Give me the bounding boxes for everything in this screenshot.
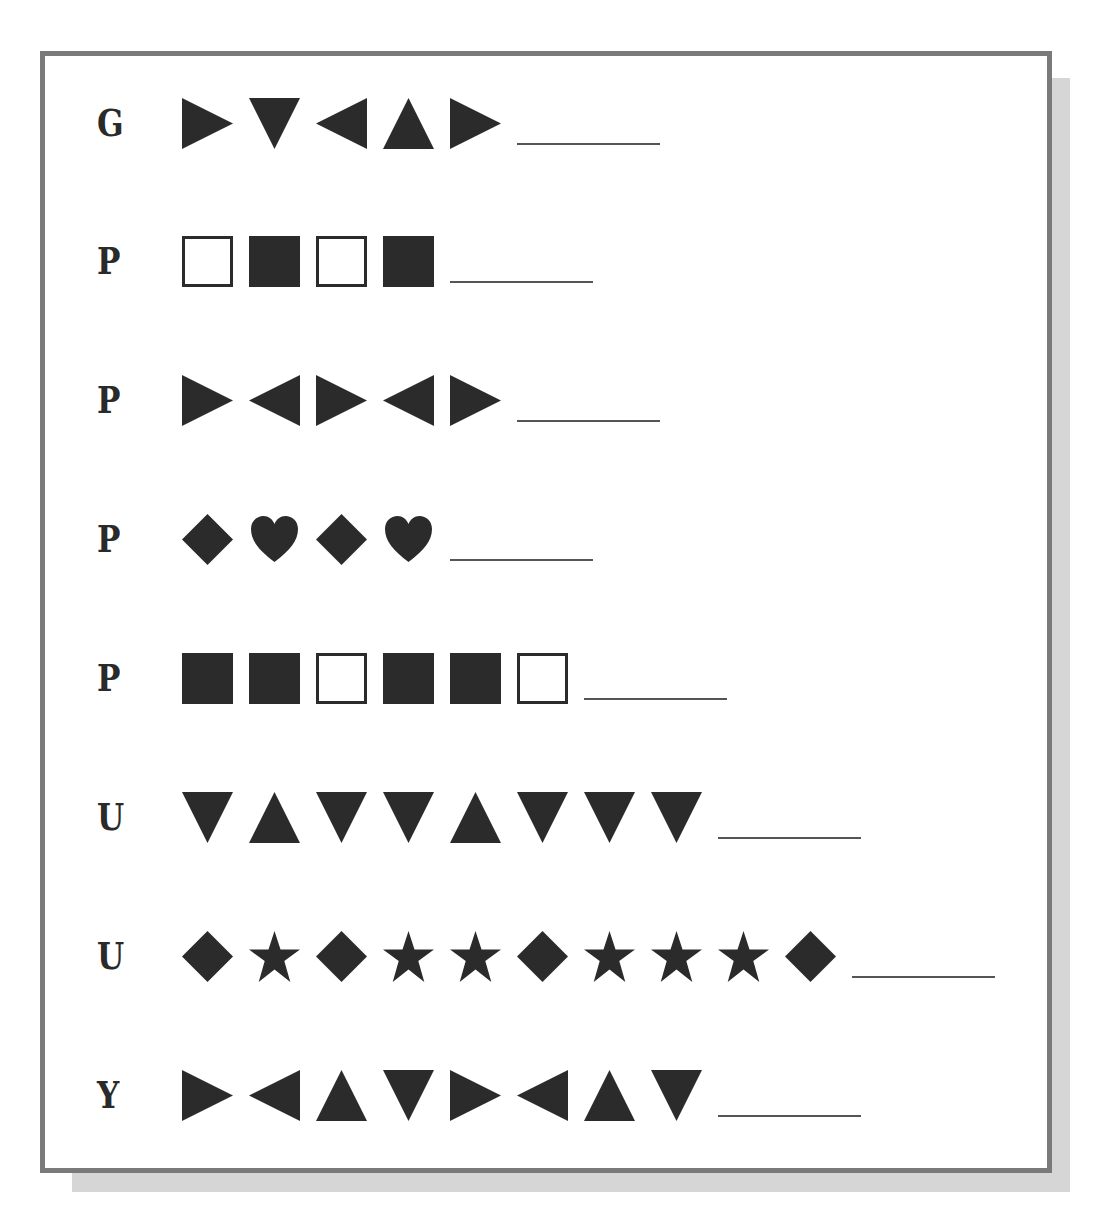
- triangle-down-icon: [651, 1070, 702, 1121]
- answer-blank[interactable]: [852, 976, 995, 978]
- triangle-right-icon: [450, 1070, 501, 1121]
- square-filled-icon: [249, 653, 300, 704]
- diamond-icon: [182, 514, 233, 565]
- star-icon: [584, 931, 635, 982]
- pattern-row: P: [45, 650, 1045, 706]
- shape-sequence: [182, 95, 660, 151]
- triangle-up-icon: [584, 1070, 635, 1121]
- triangle-up-icon: [316, 1070, 367, 1121]
- triangle-up-icon: [450, 792, 501, 843]
- answer-blank[interactable]: [584, 698, 727, 700]
- answer-blank[interactable]: [517, 143, 660, 145]
- shape-sequence: [182, 789, 861, 845]
- triangle-down-icon: [249, 98, 300, 149]
- triangle-down-icon: [383, 792, 434, 843]
- row-label: Y: [97, 1073, 130, 1117]
- row-label: G: [97, 101, 130, 145]
- square-outline-icon: [316, 653, 367, 704]
- square-filled-icon: [383, 653, 434, 704]
- row-label: P: [97, 239, 130, 283]
- pattern-row: U: [45, 789, 1045, 845]
- triangle-down-icon: [584, 792, 635, 843]
- diamond-icon: [517, 931, 568, 982]
- triangle-down-icon: [383, 1070, 434, 1121]
- worksheet-sheet: G P P P P U U Y: [40, 51, 1052, 1173]
- row-label: U: [97, 795, 130, 839]
- shape-sequence: [182, 928, 995, 984]
- shape-sequence: [182, 1067, 861, 1123]
- triangle-down-icon: [182, 792, 233, 843]
- triangle-right-icon: [450, 375, 501, 426]
- square-filled-icon: [182, 653, 233, 704]
- square-filled-icon: [383, 236, 434, 287]
- pattern-row: P: [45, 511, 1045, 567]
- answer-blank[interactable]: [450, 281, 593, 283]
- star-icon: [383, 931, 434, 982]
- answer-blank[interactable]: [718, 1115, 861, 1117]
- answer-blank[interactable]: [517, 420, 660, 422]
- answer-blank[interactable]: [718, 837, 861, 839]
- square-filled-icon: [450, 653, 501, 704]
- pattern-row: U: [45, 928, 1045, 984]
- heart-icon: [383, 514, 434, 565]
- shape-sequence: [182, 233, 593, 289]
- row-label: P: [97, 378, 130, 422]
- row-label: U: [97, 934, 130, 978]
- answer-blank[interactable]: [450, 559, 593, 561]
- square-outline-icon: [182, 236, 233, 287]
- diamond-icon: [785, 931, 836, 982]
- diamond-icon: [316, 514, 367, 565]
- square-outline-icon: [517, 653, 568, 704]
- triangle-left-icon: [517, 1070, 568, 1121]
- triangle-right-icon: [182, 98, 233, 149]
- row-label: P: [97, 517, 130, 561]
- triangle-right-icon: [316, 375, 367, 426]
- triangle-left-icon: [249, 375, 300, 426]
- diamond-icon: [182, 931, 233, 982]
- triangle-right-icon: [182, 375, 233, 426]
- star-icon: [450, 931, 501, 982]
- pattern-row: P: [45, 233, 1045, 289]
- heart-icon: [249, 514, 300, 565]
- triangle-down-icon: [651, 792, 702, 843]
- star-icon: [249, 931, 300, 982]
- pattern-row: Y: [45, 1067, 1045, 1123]
- triangle-down-icon: [517, 792, 568, 843]
- diamond-icon: [316, 931, 367, 982]
- triangle-up-icon: [249, 792, 300, 843]
- triangle-down-icon: [316, 792, 367, 843]
- square-filled-icon: [249, 236, 300, 287]
- shape-sequence: [182, 511, 593, 567]
- triangle-left-icon: [249, 1070, 300, 1121]
- shape-sequence: [182, 650, 727, 706]
- star-icon: [651, 931, 702, 982]
- triangle-right-icon: [450, 98, 501, 149]
- square-outline-icon: [316, 236, 367, 287]
- pattern-row: G: [45, 95, 1045, 151]
- triangle-right-icon: [182, 1070, 233, 1121]
- star-icon: [718, 931, 769, 982]
- triangle-left-icon: [316, 98, 367, 149]
- pattern-row: P: [45, 372, 1045, 428]
- row-label: P: [97, 656, 130, 700]
- triangle-left-icon: [383, 375, 434, 426]
- shape-sequence: [182, 372, 660, 428]
- triangle-up-icon: [383, 98, 434, 149]
